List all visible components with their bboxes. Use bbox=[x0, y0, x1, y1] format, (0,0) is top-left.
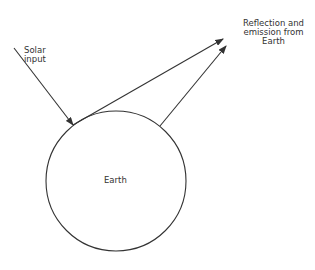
solar-label-line2: input bbox=[24, 55, 46, 64]
emission-arrow bbox=[160, 46, 226, 126]
reflection-label-line3: Earth bbox=[243, 37, 304, 46]
solar-input-label: Solar input bbox=[24, 46, 46, 64]
earth-label: Earth bbox=[104, 176, 127, 185]
reflection-arrow bbox=[73, 39, 223, 125]
reflection-emission-label: Reflection and emission from Earth bbox=[243, 19, 304, 46]
